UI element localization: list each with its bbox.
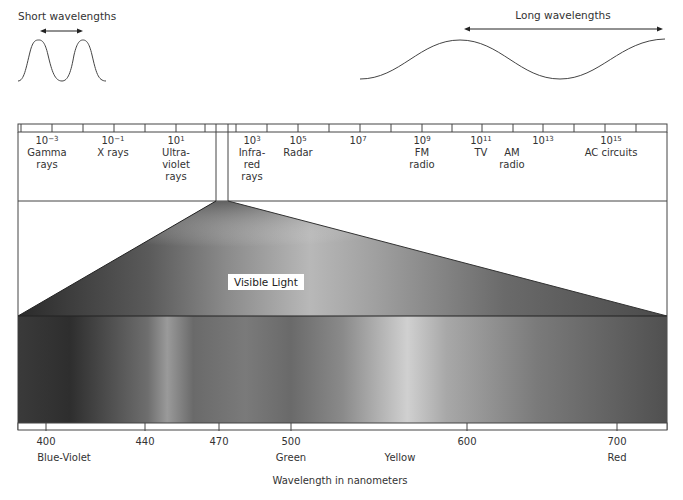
color-name-label: Yellow xyxy=(385,452,416,464)
power-of-ten: 109 xyxy=(409,135,434,147)
power-of-ten: 1015 xyxy=(585,135,638,147)
axis-tick-label: 440 xyxy=(135,436,154,448)
band-name: Radar xyxy=(283,147,312,159)
visible-spectrum-band xyxy=(18,316,667,423)
short-wave-curve xyxy=(18,40,106,81)
diagram-graphics xyxy=(0,0,683,500)
color-name-label: Blue-Violet xyxy=(37,452,91,464)
band-name: AC circuits xyxy=(585,147,638,159)
spectrum-band-label: 10−1X rays xyxy=(97,135,128,159)
axis-tick-label: 500 xyxy=(281,436,300,448)
band-name: Gamma xyxy=(27,147,67,159)
long-wave-curve xyxy=(360,39,665,79)
spectrum-band-label: 1015AC circuits xyxy=(585,135,638,159)
band-name: X rays xyxy=(97,147,128,159)
band-name: radio xyxy=(409,159,434,171)
spectrum-band-label: 109FMradio xyxy=(409,135,434,171)
spectrum-band-label: 1013 xyxy=(532,135,554,147)
power-of-ten: 10−3 xyxy=(27,135,67,147)
wavelength-axis-label: Wavelength in nanometers xyxy=(272,475,407,487)
band-name: rays xyxy=(27,159,67,171)
power-of-ten: 101 xyxy=(162,135,190,147)
axis-tick-label: 600 xyxy=(457,436,476,448)
power-of-ten: 1013 xyxy=(532,135,554,147)
spectrum-band-label: 105Radar xyxy=(283,135,312,159)
spectrum-band-label: 101Ultra-violetrays xyxy=(162,135,190,183)
band-name: Infra- xyxy=(239,147,266,159)
long-wavelengths-title: Long wavelengths xyxy=(515,9,610,21)
spectrum-band-label: 107 xyxy=(349,135,366,147)
power-of-ten: 107 xyxy=(349,135,366,147)
axis-tick-label: 400 xyxy=(36,436,55,448)
band-name: rays xyxy=(162,171,190,183)
color-name-label: Green xyxy=(276,452,306,464)
power-of-ten: 1011 xyxy=(470,135,492,147)
band-name: TV xyxy=(470,147,492,159)
power-of-ten: 10−1 xyxy=(97,135,128,147)
band-name: rays xyxy=(239,171,266,183)
axis-tick-label: 470 xyxy=(209,436,228,448)
color-name-label: Red xyxy=(608,452,627,464)
band-name: violet xyxy=(162,159,190,171)
band-name: FM xyxy=(409,147,434,159)
spectrum-band-label: AMradio xyxy=(499,147,524,171)
band-name: Ultra- xyxy=(162,147,190,159)
spectrum-band-label: 10−3Gammarays xyxy=(27,135,67,171)
spectrum-band-label: 1011TV xyxy=(470,135,492,159)
band-name: red xyxy=(239,159,266,171)
short-wavelengths-title: Short wavelengths xyxy=(18,10,116,22)
power-of-ten: 105 xyxy=(283,135,312,147)
visible-light-label: Visible Light xyxy=(228,274,304,290)
spectrum-band-label: 103Infra-redrays xyxy=(239,135,266,183)
power-of-ten: 103 xyxy=(239,135,266,147)
axis-tick-label: 700 xyxy=(607,436,626,448)
